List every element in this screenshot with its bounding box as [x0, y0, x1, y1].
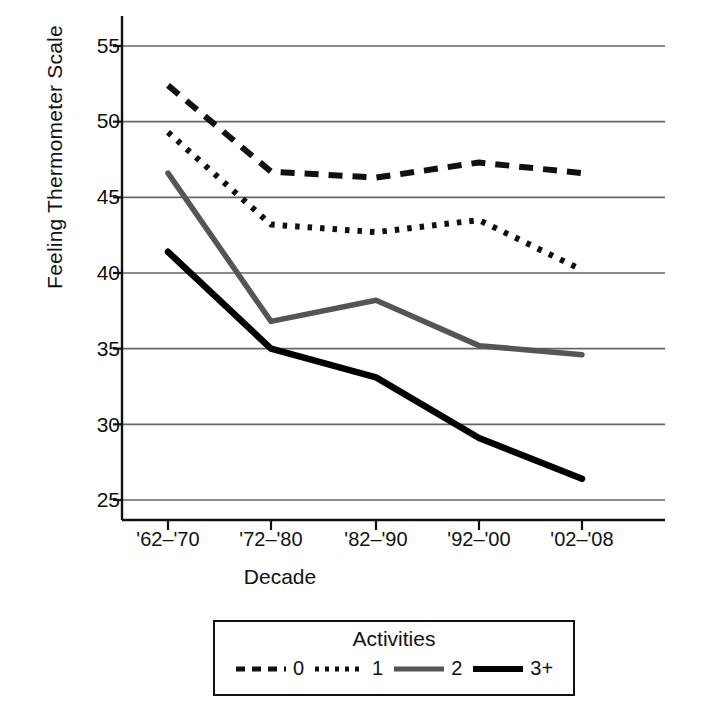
dotted-line-key — [314, 663, 366, 675]
legend-item-3[interactable]: 3+ — [472, 657, 553, 680]
series-line-3+ — [168, 252, 582, 479]
series-line-1 — [168, 132, 582, 270]
legend-item-2[interactable]: 2 — [393, 657, 462, 680]
x-axis-tick-labels: '62–'70 '72–'80 '82–'90 '92–'00 '02–'08 — [0, 528, 716, 558]
legend-label: 2 — [451, 657, 462, 680]
black-solid-line-key — [472, 663, 524, 675]
x-tick-label: '92–'00 — [447, 528, 510, 551]
chart-figure: Feeling Thermometer Scale 55 50 45 40 35… — [0, 0, 716, 710]
dashed-line-key — [235, 663, 287, 675]
x-axis-title: Decade — [244, 565, 316, 589]
x-tick-label: '82–'90 — [344, 528, 407, 551]
axis-lines — [122, 16, 665, 520]
legend-label: 1 — [372, 657, 383, 680]
legend-label: 0 — [293, 657, 304, 680]
x-tick-label: '62–'70 — [136, 528, 199, 551]
gridlines — [122, 46, 665, 500]
x-tick-label: '02–'08 — [550, 528, 613, 551]
series-line-0 — [168, 85, 582, 177]
series-lines — [168, 85, 582, 478]
axis-ticks — [113, 46, 582, 530]
legend-items: 0 1 2 3+ — [215, 657, 573, 680]
legend-item-1[interactable]: 1 — [314, 657, 383, 680]
legend: Activities 0 1 2 3+ — [213, 620, 575, 696]
x-tick-label: '72–'80 — [239, 528, 302, 551]
gray-solid-line-key — [393, 663, 445, 675]
x-axis-title-wrap: Decade — [0, 565, 716, 589]
plot-area — [0, 0, 716, 710]
legend-title: Activities — [215, 627, 573, 651]
legend-label: 3+ — [530, 657, 553, 680]
legend-item-0[interactable]: 0 — [235, 657, 304, 680]
series-line-2 — [168, 173, 582, 355]
